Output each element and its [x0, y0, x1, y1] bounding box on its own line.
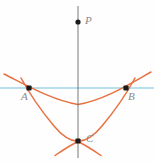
point-label-C: C [86, 133, 93, 144]
geometry-figure: P A B C [0, 0, 154, 162]
point-label-A: A [21, 91, 28, 102]
steep-parabola-tail-left [55, 142, 78, 156]
point-C-marker [75, 138, 80, 143]
figure-canvas [0, 0, 154, 162]
point-P-marker [75, 19, 80, 24]
point-label-B: B [128, 91, 135, 102]
point-label-P: P [85, 15, 92, 26]
